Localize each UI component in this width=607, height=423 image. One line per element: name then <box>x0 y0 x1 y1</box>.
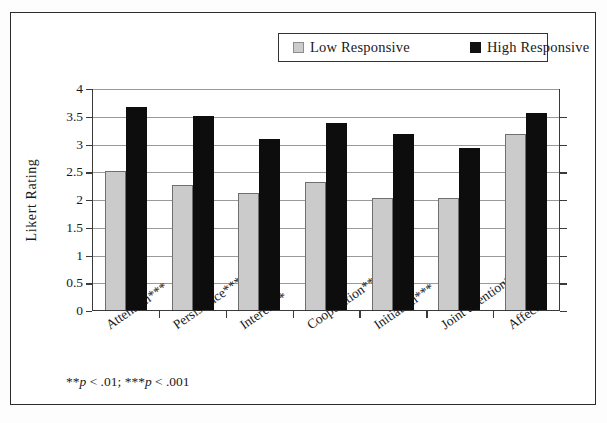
y-axis-tick-label: 2.5 <box>66 164 83 180</box>
y-axis-tick <box>86 117 92 118</box>
bar-group <box>160 89 227 310</box>
right-axis-tick <box>560 200 567 201</box>
footnote-p-2: p <box>145 374 152 389</box>
y-axis-tick <box>86 145 92 146</box>
legend-item-high-responsive: High Responsive <box>470 39 589 56</box>
footnote-text-1: < .01; <box>86 374 124 389</box>
x-axis-tick <box>493 311 494 318</box>
right-axis-tick <box>560 283 567 284</box>
bar-low-responsive[interactable] <box>305 182 326 310</box>
bar-low-responsive[interactable] <box>438 198 459 310</box>
bar-low-responsive[interactable] <box>172 185 193 310</box>
bar-high-responsive[interactable] <box>259 139 280 310</box>
bar-high-responsive[interactable] <box>126 107 147 310</box>
y-axis-tick <box>86 172 92 173</box>
legend-label-high-responsive: High Responsive <box>487 39 589 56</box>
y-axis-tick <box>86 89 92 90</box>
legend-swatch-low-responsive <box>293 42 304 53</box>
bar-high-responsive[interactable] <box>326 123 347 310</box>
y-axis-tick-label: 1.5 <box>66 220 83 236</box>
y-axis-tick-label: 3 <box>76 137 83 153</box>
legend-label-low-responsive: Low Responsive <box>310 39 410 56</box>
footnote-text-2: < .001 <box>152 374 190 389</box>
bar-low-responsive[interactable] <box>372 198 393 310</box>
y-axis-tick-label: 2 <box>76 192 83 208</box>
x-axis-tick <box>426 311 427 318</box>
right-axis-tick <box>560 228 567 229</box>
x-axis-tick <box>293 311 294 318</box>
bar-high-responsive[interactable] <box>393 134 414 310</box>
right-axis-tick <box>560 256 567 257</box>
y-axis-tick <box>86 228 92 229</box>
bar-low-responsive[interactable] <box>105 171 126 310</box>
y-axis-tick <box>86 311 92 312</box>
figure-container: Low Responsive High Responsive Likert Ra… <box>0 0 607 423</box>
plot-area <box>92 89 560 311</box>
legend-item-low-responsive: Low Responsive <box>293 39 410 56</box>
y-axis-title: Likert Rating <box>24 159 40 242</box>
bar-low-responsive[interactable] <box>238 193 259 310</box>
footnote-stars-1: ** <box>66 374 80 389</box>
x-axis-tick <box>159 311 160 318</box>
bar-group <box>426 89 493 310</box>
bar-low-responsive[interactable] <box>505 134 526 310</box>
x-axis-tick <box>226 311 227 318</box>
x-axis-tick <box>359 311 360 318</box>
y-axis-tick-label: 3.5 <box>66 109 83 125</box>
bar-group <box>293 89 360 310</box>
y-axis-tick <box>86 283 92 284</box>
y-axis-tick-label: 4 <box>76 81 83 97</box>
right-axis-tick <box>560 145 567 146</box>
right-axis-tick <box>560 172 567 173</box>
chart-legend: Low Responsive High Responsive <box>278 33 548 62</box>
y-axis-tick-label: 0 <box>76 303 83 319</box>
y-axis-tick <box>86 256 92 257</box>
bar-high-responsive[interactable] <box>193 116 214 310</box>
footnote-stars-2: *** <box>125 374 145 389</box>
right-axis-tick <box>560 311 567 312</box>
y-axis-tick-label: 1 <box>76 248 83 264</box>
bar-groups <box>93 89 559 310</box>
significance-footnote: **p < .01; ***p < .001 <box>66 374 190 390</box>
bar-high-responsive[interactable] <box>526 113 547 310</box>
bar-high-responsive[interactable] <box>459 148 480 310</box>
legend-swatch-high-responsive <box>470 42 481 53</box>
bar-group <box>93 89 160 310</box>
y-axis-tick <box>86 200 92 201</box>
y-axis-tick-label: 0.5 <box>66 275 83 291</box>
right-axis-tick <box>560 117 567 118</box>
